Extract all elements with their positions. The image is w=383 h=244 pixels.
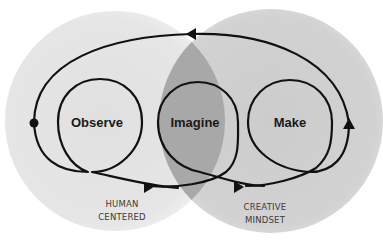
dot-icon — [30, 119, 39, 128]
area-label-creative-line2: MINDSET — [245, 215, 286, 225]
stage-label-make: Make — [274, 115, 307, 130]
area-label-human-line2: CENTERED — [98, 212, 146, 222]
design-thinking-venn-diagram: Observe Imagine Make HUMAN CENTERED CREA… — [0, 0, 383, 244]
arrow-left-icon — [186, 28, 196, 40]
stage-label-imagine: Imagine — [170, 115, 219, 130]
area-label-creative-line1: CREATIVE — [244, 202, 287, 212]
area-label-human-line1: HUMAN — [105, 199, 138, 209]
stage-label-observe: Observe — [71, 115, 123, 130]
